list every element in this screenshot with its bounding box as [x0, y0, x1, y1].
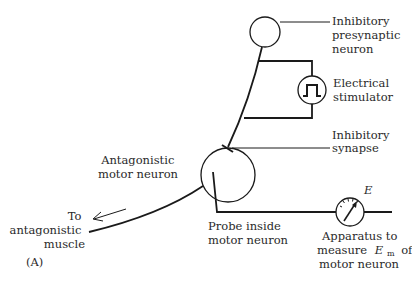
apparatus-label-line3: motor neuron [319, 257, 400, 271]
muscle-label: To antagonistic muscle [10, 209, 86, 251]
presynaptic-label: Inhibitory presynaptic neuron [332, 14, 404, 56]
motor-neuron-cell [201, 148, 255, 202]
presynaptic-axon [228, 47, 262, 147]
presynaptic-neuron-cell [250, 17, 280, 47]
electrical-stimulator-icon [298, 76, 326, 104]
meter-e-symbol: E [363, 183, 373, 197]
neuron-inhibition-diagram: Inhibitory presynaptic neuron Electrical… [0, 0, 412, 282]
synapse-label: Inhibitory synapse [332, 128, 393, 155]
stimulator-label: Electrical stimulator [333, 76, 394, 104]
stimulator-wire-top [259, 61, 312, 76]
stimulator-wire-bottom [244, 104, 312, 118]
panel-label: (A) [26, 255, 43, 269]
apparatus-label: Apparatus to [321, 229, 397, 243]
motor-neuron-label: Antagonistic motor neuron [98, 153, 179, 181]
motor-axon [89, 186, 203, 232]
probe-label: Probe inside motor neuron [208, 219, 289, 247]
